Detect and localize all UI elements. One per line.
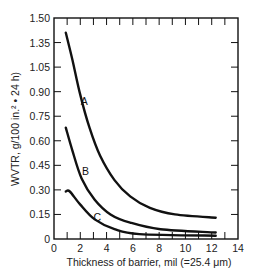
x-tick-label: 14 (232, 242, 244, 254)
y-tick-label: 0.60 (30, 135, 51, 147)
y-tick-label: 0 (44, 233, 50, 245)
x-tick-label: 12 (206, 242, 218, 254)
y-tick-label: 0.75 (30, 110, 51, 122)
y-tick-label: 1.50 (30, 12, 51, 24)
x-tick-label: 8 (156, 242, 162, 254)
x-tick-label: 6 (130, 242, 136, 254)
curve-label-b: B (82, 165, 89, 177)
curve-label-c: C (94, 211, 102, 223)
x-tick-label: 4 (104, 242, 110, 254)
y-tick-label: 0.90 (30, 86, 51, 98)
x-tick-label: 10 (180, 242, 192, 254)
y-tick-label: 0.45 (30, 159, 51, 171)
curve-label-a: A (81, 95, 88, 107)
x-axis-title: Thickness of barrier, mil (=25.4 μm) (66, 256, 231, 268)
y-axis-title: WVTR, g/100 in.² • 24 h) (9, 72, 21, 186)
curve-c (66, 191, 216, 236)
y-tick-label: 0.15 (30, 208, 51, 220)
x-tick-label: 2 (77, 242, 83, 254)
y-tick-label: 1.35 (30, 37, 51, 49)
y-tick-label: 1.05 (30, 61, 51, 73)
y-tick-label: 0.30 (30, 184, 51, 196)
x-tick-label: 0 (51, 242, 57, 254)
wvtr-chart: 0246810121400.150.300.450.600.750.901.05… (0, 0, 258, 280)
